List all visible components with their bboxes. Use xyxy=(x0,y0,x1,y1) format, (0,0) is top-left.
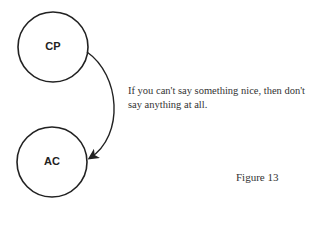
cp-to-ac-arrow xyxy=(87,52,114,158)
annotation-text: If you can't say something nice, then do… xyxy=(128,84,318,112)
ac-node-label: AC xyxy=(32,155,72,167)
cp-node-label: CP xyxy=(33,40,73,52)
figure-caption: Figure 13 xyxy=(236,171,278,183)
